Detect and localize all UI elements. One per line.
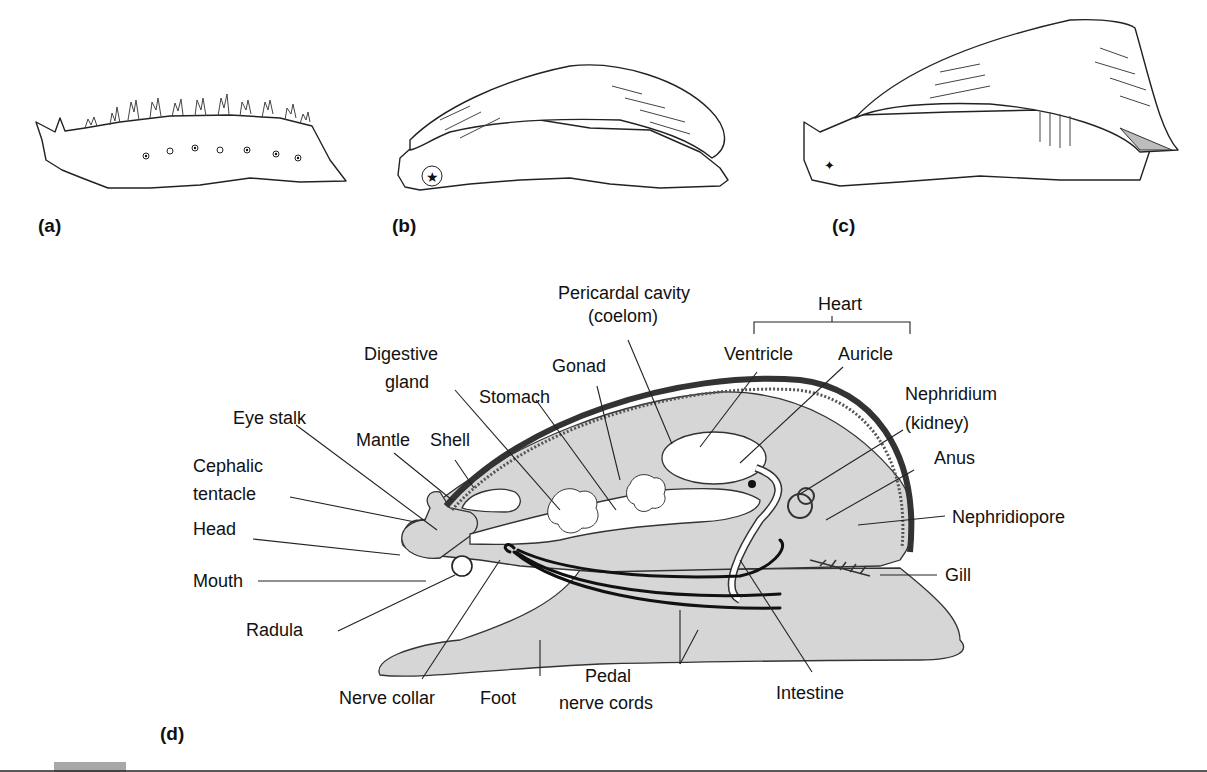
panel-c-illustration: ✦ bbox=[804, 20, 1178, 186]
panel-label-a: (a) bbox=[38, 215, 61, 236]
label-gonad: Gonad bbox=[552, 356, 606, 376]
label-stomach: Stomach bbox=[479, 387, 550, 407]
label-eye-stalk: Eye stalk bbox=[233, 408, 307, 428]
label-digestive-gland: Digestive bbox=[364, 344, 438, 364]
mollusc-figure: (a) ★ (b) ✦ (c) bbox=[0, 0, 1207, 772]
foot bbox=[379, 568, 964, 676]
star-marker-icon: ✦ bbox=[824, 158, 835, 173]
panel-b-illustration: ★ bbox=[398, 65, 728, 190]
pericardial-cavity bbox=[662, 432, 766, 484]
label-ventricle: Ventricle bbox=[724, 344, 793, 364]
label-gland: gland bbox=[385, 372, 429, 392]
anatomy-diagram bbox=[379, 316, 964, 676]
label-auricle: Auricle bbox=[838, 344, 893, 364]
label-gill: Gill bbox=[945, 565, 971, 585]
label-tentacle: tentacle bbox=[193, 484, 256, 504]
label-pedal: Pedal bbox=[585, 666, 631, 686]
label-head: Head bbox=[193, 519, 236, 539]
label-pericardial-cavity: Pericardal cavity bbox=[558, 283, 690, 303]
panel-label-c: (c) bbox=[832, 215, 855, 236]
label-foot: Foot bbox=[480, 688, 516, 708]
panel-label-d: (d) bbox=[160, 723, 184, 744]
label-mantle: Mantle bbox=[356, 430, 410, 450]
label-nephridium: Nephridium bbox=[905, 384, 997, 404]
label-nerve-collar: Nerve collar bbox=[339, 688, 435, 708]
label-anus: Anus bbox=[934, 448, 975, 468]
panel-label-b: (b) bbox=[392, 215, 416, 236]
star-marker-icon: ★ bbox=[426, 169, 439, 185]
label-shell: Shell bbox=[430, 430, 470, 450]
label-radula: Radula bbox=[246, 620, 304, 640]
label-heart: Heart bbox=[818, 294, 862, 314]
panel-a-illustration bbox=[36, 94, 346, 188]
label-intestine: Intestine bbox=[776, 683, 844, 703]
label-coelom: (coelom) bbox=[588, 306, 658, 326]
label-cephalic: Cephalic bbox=[193, 456, 263, 476]
label-mouth: Mouth bbox=[193, 571, 243, 591]
label-nephridiopore: Nephridiopore bbox=[952, 507, 1065, 527]
label-nerve-cords: nerve cords bbox=[559, 693, 653, 713]
label-kidney: (kidney) bbox=[905, 413, 969, 433]
